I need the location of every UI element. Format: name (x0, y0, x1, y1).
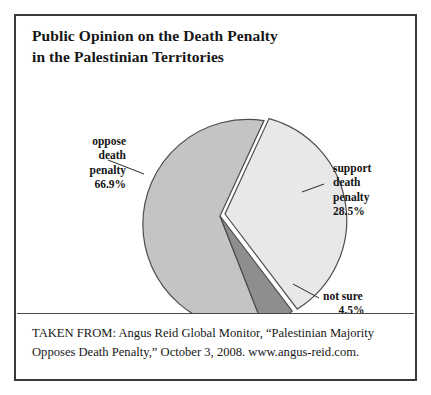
slice-label-oppose: oppose death penalty 66.9% (48, 134, 126, 192)
title-line-2: in the Palestinian Territories (32, 47, 372, 68)
slice-label-support: support death penalty 28.5% (333, 161, 428, 219)
not-sure-label-line-1: not sure (323, 289, 423, 303)
support-label-line-3: penalty (333, 190, 428, 204)
oppose-label-value: 66.9% (48, 177, 126, 191)
figure-frame: Public Opinion on the Death Penalty in t… (14, 14, 417, 381)
oppose-label-line-2: death (48, 148, 126, 162)
title-line-1: Public Opinion on the Death Penalty (32, 26, 372, 47)
support-label-value: 28.5% (333, 204, 428, 218)
oppose-label-line-3: penalty (48, 163, 126, 177)
not-sure-label-value: 4.5% (323, 303, 380, 317)
page-title: Public Opinion on the Death Penalty in t… (32, 26, 372, 68)
caption-divider (17, 313, 414, 314)
source-caption: TAKEN FROM: Angus Reid Global Monitor, “… (32, 324, 404, 361)
source-line-2: Opposes Death Penalty,” October 3, 2008.… (32, 343, 404, 362)
support-label-line-2: death (333, 175, 428, 189)
source-line-1: TAKEN FROM: Angus Reid Global Monitor, “… (32, 324, 404, 343)
oppose-label-line-1: oppose (48, 134, 126, 148)
support-label-line-1: support (333, 161, 428, 175)
